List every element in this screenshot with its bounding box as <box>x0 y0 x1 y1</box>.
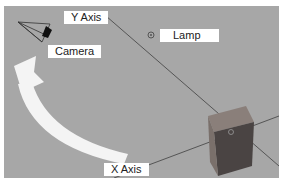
rotate-arrow-icon <box>14 56 128 164</box>
3d-viewport[interactable]: Y Axis Camera Lamp X Axis <box>4 6 279 178</box>
scene-canvas <box>4 6 279 178</box>
cube-mesh <box>208 106 254 176</box>
camera-icon <box>18 22 52 42</box>
y-axis-label: Y Axis <box>64 11 108 24</box>
camera-label: Camera <box>48 45 101 58</box>
x-axis-label: X Axis <box>104 163 149 176</box>
lamp-icon <box>148 32 154 38</box>
lamp-label: Lamp <box>160 29 219 42</box>
